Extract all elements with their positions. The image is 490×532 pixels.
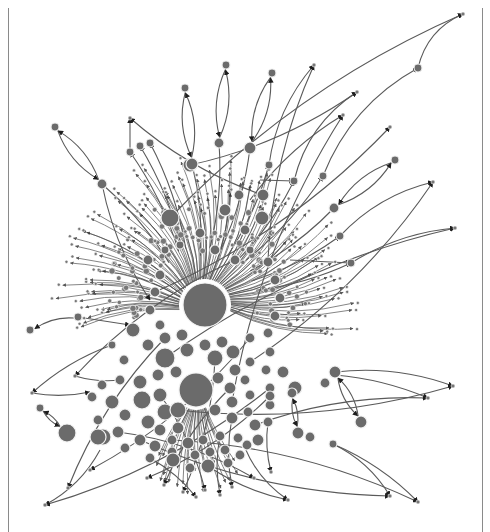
nodes-layer xyxy=(26,61,422,473)
satellite-node xyxy=(329,203,339,213)
satellite-node xyxy=(414,64,422,72)
cluster-node xyxy=(226,412,238,424)
cluster-node xyxy=(105,395,119,409)
cluster-node xyxy=(209,404,221,416)
cluster-node xyxy=(270,311,280,321)
cluster-node xyxy=(143,255,153,265)
satellite-node xyxy=(51,123,59,131)
cluster-node xyxy=(153,388,167,402)
satellite-node xyxy=(126,148,134,156)
cluster-node xyxy=(182,437,194,449)
cluster-node xyxy=(152,369,164,381)
cluster-node xyxy=(246,246,254,254)
cluster-node xyxy=(199,339,211,351)
cluster-node xyxy=(233,433,243,443)
network-graph xyxy=(0,0,490,532)
cluster-node xyxy=(198,435,208,445)
satellite-node xyxy=(292,427,304,439)
cluster-node xyxy=(240,225,250,235)
cluster-node xyxy=(172,422,184,434)
satellite-node xyxy=(58,424,76,442)
cluster-node xyxy=(224,382,236,394)
cluster-node xyxy=(263,328,273,338)
cluster-node xyxy=(170,402,186,418)
cluster-node xyxy=(229,364,241,376)
cluster-node xyxy=(155,320,165,330)
satellite-node xyxy=(244,142,256,154)
cluster-node xyxy=(226,396,238,408)
cluster-node xyxy=(277,366,289,378)
satellite-node xyxy=(26,326,34,334)
cluster-node xyxy=(257,189,269,201)
satellite-node xyxy=(36,404,44,412)
satellite-node xyxy=(336,232,344,240)
cluster-node xyxy=(245,333,255,343)
cluster-node xyxy=(265,391,275,401)
satellite-node xyxy=(268,69,276,77)
cluster-node xyxy=(176,241,184,249)
cluster-node xyxy=(155,348,175,368)
cluster-node xyxy=(142,339,154,351)
cluster-node xyxy=(166,453,180,467)
cluster-node xyxy=(242,440,252,450)
satellite-node xyxy=(391,156,399,164)
cluster-node xyxy=(155,270,165,280)
cluster-node xyxy=(234,190,244,200)
cluster-node xyxy=(185,463,195,473)
cluster-node xyxy=(216,336,228,348)
cluster-node xyxy=(133,391,151,409)
satellite-node xyxy=(186,158,198,170)
satellite-node xyxy=(181,84,189,92)
satellite-node xyxy=(320,378,330,388)
cluster-node xyxy=(161,209,179,227)
cluster-node xyxy=(145,453,155,463)
cluster-node xyxy=(190,450,200,460)
cluster-node xyxy=(261,365,271,375)
satellite-node xyxy=(305,432,315,442)
cluster-node xyxy=(119,355,129,365)
cluster-node xyxy=(265,347,275,357)
cluster-node xyxy=(159,332,171,344)
cluster-node xyxy=(120,443,130,453)
cluster-node xyxy=(141,415,155,429)
cluster-node xyxy=(212,372,224,384)
cluster-node xyxy=(219,204,231,216)
cluster-node xyxy=(133,375,147,389)
cluster-node xyxy=(240,375,250,385)
cluster-node xyxy=(210,245,220,255)
satellite-node xyxy=(329,366,341,378)
hub-1-node xyxy=(183,283,227,327)
satellite-node xyxy=(214,138,224,148)
satellite-node xyxy=(97,179,107,189)
cluster-node xyxy=(201,459,215,473)
satellite-node xyxy=(329,440,337,448)
cluster-node xyxy=(119,409,131,421)
cluster-node xyxy=(205,447,215,457)
figure-frame xyxy=(0,0,490,532)
cluster-node xyxy=(150,287,160,297)
cluster-node xyxy=(154,424,166,436)
satellite-node xyxy=(287,388,297,398)
cluster-node xyxy=(97,380,107,390)
cluster-node xyxy=(226,345,240,359)
cluster-node xyxy=(207,350,223,366)
satellite-node xyxy=(136,142,144,150)
cluster-node xyxy=(230,255,240,265)
cluster-node xyxy=(112,426,124,438)
cluster-node xyxy=(161,246,169,254)
cluster-node xyxy=(249,419,261,431)
cluster-node xyxy=(245,390,255,400)
cluster-node xyxy=(170,366,182,378)
cluster-node xyxy=(245,357,255,367)
satellite-node xyxy=(74,313,82,321)
cluster-node xyxy=(195,228,205,238)
cluster-node xyxy=(252,434,264,446)
cluster-node xyxy=(108,341,116,349)
cluster-node xyxy=(149,440,161,452)
satellite-node xyxy=(347,259,355,267)
cluster-node xyxy=(167,435,177,445)
cluster-node xyxy=(93,415,103,425)
satellite-node xyxy=(319,172,327,180)
satellite-node xyxy=(290,177,298,185)
cluster-node xyxy=(243,407,253,417)
